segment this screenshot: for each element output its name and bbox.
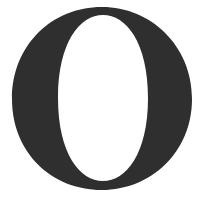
letter-o-shape: [0, 0, 199, 208]
letter-o-glyph: O: [0, 0, 199, 208]
